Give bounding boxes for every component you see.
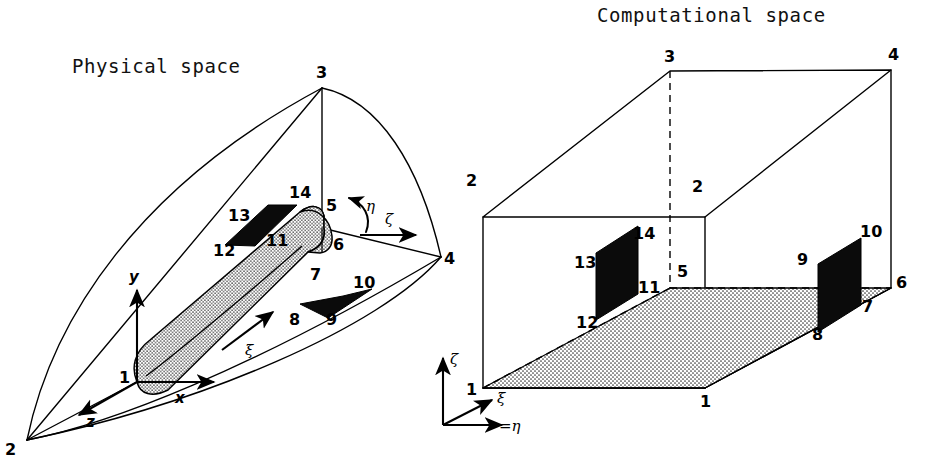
node-label-1-mid-computational: 1 bbox=[700, 392, 711, 411]
x-axis-label: x bbox=[174, 389, 186, 407]
node-label-7-physical: 7 bbox=[310, 265, 321, 284]
xi-axis-label-computational: ξ bbox=[497, 389, 506, 407]
node-label-5-physical: 5 bbox=[326, 196, 337, 215]
zeta-axis-label-physical: ζ bbox=[385, 210, 394, 228]
node-label-10-computational: 10 bbox=[860, 222, 882, 241]
xi-axis-label-physical: ξ bbox=[245, 341, 254, 359]
node-label-9-computational: 9 bbox=[797, 250, 808, 269]
node-label-10-physical: 10 bbox=[353, 273, 375, 292]
node-label-14-physical: 14 bbox=[289, 183, 311, 202]
node-label-4-physical: 4 bbox=[444, 249, 455, 268]
figure-root: Physical space 1 2 3 4 5 bbox=[0, 0, 934, 474]
eta-axis-label-computational: =η bbox=[499, 417, 521, 435]
node-label-14-computational: 14 bbox=[633, 224, 655, 243]
node-label-2-left-computational: 2 bbox=[466, 171, 477, 190]
node-label-8-physical: 8 bbox=[289, 310, 300, 329]
node-label-13-computational: 13 bbox=[574, 253, 596, 272]
node-label-2-physical: 2 bbox=[5, 440, 16, 459]
node-label-9-physical: 9 bbox=[326, 310, 337, 329]
zeta-axis-label-computational: ζ bbox=[450, 350, 459, 368]
node-label-6-computational: 6 bbox=[896, 273, 907, 292]
node-label-11-physical: 11 bbox=[266, 231, 288, 250]
y-axis-label: y bbox=[129, 268, 140, 286]
computational-space-title: Computational space bbox=[597, 4, 826, 26]
node-label-1-physical: 1 bbox=[119, 368, 130, 387]
z-axis-label: z bbox=[85, 413, 95, 431]
node-label-13-physical: 13 bbox=[228, 206, 250, 225]
node-label-7-computational: 7 bbox=[862, 297, 873, 316]
node-label-4-computational: 4 bbox=[888, 45, 899, 64]
eta-axis-label-physical: η bbox=[366, 197, 375, 215]
node-label-1-left-computational: 1 bbox=[466, 380, 477, 399]
node-label-8-computational: 8 bbox=[812, 325, 823, 344]
node-label-11-computational: 11 bbox=[638, 278, 660, 297]
physical-space-title: Physical space bbox=[72, 55, 241, 77]
node-label-3-computational: 3 bbox=[664, 47, 675, 66]
node-label-3-physical: 3 bbox=[316, 63, 327, 82]
node-label-5-computational: 5 bbox=[677, 262, 688, 281]
node-label-12-physical: 12 bbox=[213, 241, 235, 260]
node-label-12-computational: 12 bbox=[576, 313, 598, 332]
node-label-2-mid-computational: 2 bbox=[692, 177, 703, 196]
node-label-6-physical: 6 bbox=[333, 235, 344, 254]
